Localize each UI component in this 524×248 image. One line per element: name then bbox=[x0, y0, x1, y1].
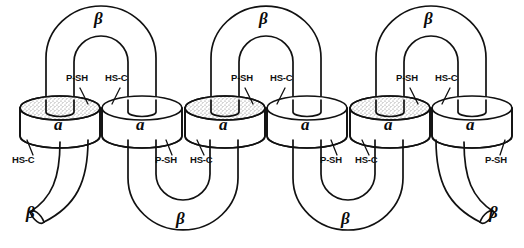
subunit-diagram-svg bbox=[0, 0, 524, 248]
beta-label-bottom-3: β bbox=[341, 210, 350, 227]
beta-label-top-1: β bbox=[94, 10, 103, 27]
thiol-label-top-1-right: HS-C bbox=[105, 73, 127, 83]
thiol-label-bottom-1: HS-C bbox=[12, 155, 34, 165]
beta-label-bottom-4: β bbox=[489, 204, 498, 221]
alpha-label-4: a bbox=[301, 116, 309, 133]
beta-terminal-right bbox=[436, 140, 494, 223]
thiol-label-bottom-3: HS-C bbox=[190, 155, 212, 165]
beta-terminal-left bbox=[30, 140, 88, 223]
alpha-label-3: a bbox=[219, 116, 227, 133]
alpha-label-2: a bbox=[136, 116, 144, 133]
thiol-label-top-2-left: P-SH bbox=[231, 73, 253, 83]
thiol-label-bottom-6: P-SH bbox=[485, 155, 507, 165]
alpha-label-6: a bbox=[466, 116, 474, 133]
alpha-label-5: a bbox=[384, 116, 392, 133]
thiol-label-bottom-2: P-SH bbox=[155, 155, 177, 165]
thiol-label-top-1-left: P-SH bbox=[66, 73, 88, 83]
beta-label-top-2: β bbox=[259, 10, 268, 27]
beta-label-bottom-1: β bbox=[26, 204, 35, 221]
thiol-label-bottom-5: HS-C bbox=[355, 155, 377, 165]
beta-label-bottom-2: β bbox=[176, 210, 185, 227]
thiol-label-top-2-right: HS-C bbox=[270, 73, 292, 83]
figure-canvas: β β β P-SH HS-C P-SH HS-C P-SH HS-C a a … bbox=[0, 0, 524, 248]
thiol-label-top-3-left: P-SH bbox=[396, 73, 418, 83]
thiol-label-top-3-right: HS-C bbox=[435, 73, 457, 83]
beta-label-top-3: β bbox=[424, 10, 433, 27]
leader-lines-bottom bbox=[27, 140, 505, 155]
thiol-label-bottom-4: P-SH bbox=[320, 155, 342, 165]
alpha-label-1: a bbox=[54, 116, 62, 133]
